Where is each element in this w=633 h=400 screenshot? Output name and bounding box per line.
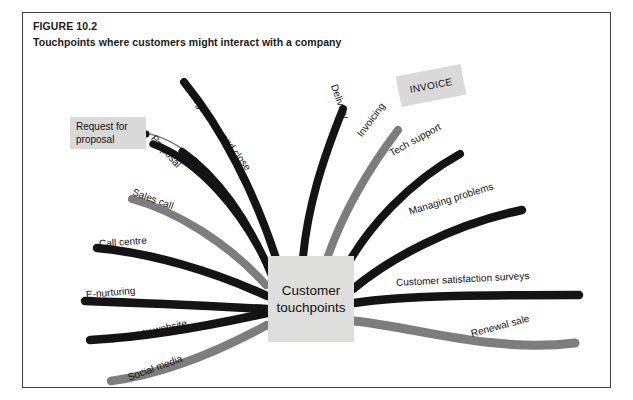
branch-curve-renewal-sale	[354, 321, 575, 345]
rfp-line-1: Request for	[76, 121, 141, 134]
branch-curve-e-nurturing	[85, 301, 267, 309]
branch-curve-customer-satisfaction-surveys	[354, 295, 579, 303]
center-node-line-1: Customer	[276, 282, 345, 299]
touchpoints-diagram: Customer touchpoints Request for proposa…	[23, 13, 612, 389]
branch-curve-delivery	[302, 109, 343, 269]
request-for-proposal-box: Request for proposal	[70, 117, 146, 149]
invoice-label: INVOICE	[409, 76, 454, 95]
figure-frame: FIGURE 10.2 Touchpoints where customers …	[22, 12, 611, 388]
rfp-line-2: proposal	[76, 134, 141, 147]
center-node-line-2: touchpoints	[276, 299, 345, 316]
center-node: Customer touchpoints	[268, 256, 354, 342]
